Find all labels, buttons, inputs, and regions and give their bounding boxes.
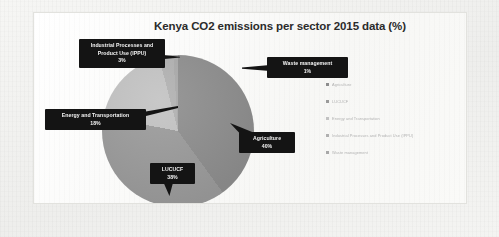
legend-item-label: LUCUCF: [332, 99, 348, 104]
legend-marker-icon: [326, 117, 329, 120]
chart-card: Kenya CO2 emissions per sector 2015 data…: [33, 12, 467, 204]
legend-marker-icon: [326, 151, 329, 154]
legend-item[interactable]: LUCUCF: [326, 93, 458, 110]
callout-agriculture-label: Agriculture: [253, 135, 281, 141]
chart-legend: AgricultureLUCUCFEnergy and Transportati…: [326, 76, 458, 161]
legend-marker-icon: [326, 134, 329, 137]
callout-energy-percent: 18%: [49, 120, 142, 128]
legend-item[interactable]: Energy and Transportation: [326, 110, 458, 127]
chart-title: Kenya CO2 emissions per sector 2015 data…: [130, 20, 430, 32]
callout-lucucf-label: LUCUCF: [162, 166, 184, 172]
legend-marker-icon: [326, 83, 329, 86]
legend-item-label: Energy and Transportation: [332, 116, 380, 121]
legend-marker-icon: [326, 100, 329, 103]
legend-item-label: Industrial Processes and Product Use (IP…: [332, 133, 413, 138]
legend-item[interactable]: Industrial Processes and Product Use (IP…: [326, 127, 458, 144]
callout-lucucf: LUCUCF 38%: [150, 163, 195, 184]
legend-item-label: Agriculture: [332, 82, 351, 87]
callout-ippu-line2: Product Use (IPPU): [98, 50, 146, 56]
legend-item[interactable]: Waste management: [326, 144, 458, 161]
legend-item-label: Waste management: [332, 150, 368, 155]
legend-item[interactable]: Agriculture: [326, 76, 458, 93]
callout-waste-management: Waste management 1%: [267, 57, 348, 78]
callout-agriculture-percent: 40%: [243, 143, 291, 151]
callout-energy-label: Energy and Transportation: [62, 112, 129, 118]
callout-ippu: Industrial Processes and Product Use (IP…: [79, 39, 165, 68]
callout-waste-label: Waste management: [283, 60, 332, 66]
callout-ippu-percent: 3%: [83, 57, 161, 65]
callout-agriculture: Agriculture 40%: [239, 132, 295, 153]
callout-waste-percent: 1%: [271, 68, 344, 76]
callout-energy-and-transportation: Energy and Transportation 18%: [45, 109, 146, 130]
callout-ippu-line1: Industrial Processes and: [91, 42, 154, 48]
callout-lucucf-percent: 38%: [154, 174, 191, 182]
